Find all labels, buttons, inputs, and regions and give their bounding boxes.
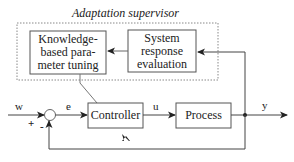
block-diagram xyxy=(0,0,294,162)
controller-label: Controller xyxy=(88,109,143,122)
process-label: Process xyxy=(176,109,231,122)
plus-sign: + xyxy=(28,118,34,129)
supervisor-title: Adaptation supervisor xyxy=(72,7,179,19)
signal-u-label: u xyxy=(153,101,159,112)
signal-e-label: e xyxy=(66,101,71,112)
knowledge-block-label: Knowledge- based para- meter tuning xyxy=(30,33,106,72)
minus-sign: - xyxy=(40,121,44,132)
evaluation-block-label: System response evaluation xyxy=(128,32,196,71)
signal-y-label: y xyxy=(262,100,268,111)
signal-w-label: w xyxy=(15,101,23,112)
parameter-adjust-arrowhead xyxy=(122,134,130,141)
summing-junction xyxy=(45,110,56,121)
knowledge-to-controller-line xyxy=(80,74,97,103)
